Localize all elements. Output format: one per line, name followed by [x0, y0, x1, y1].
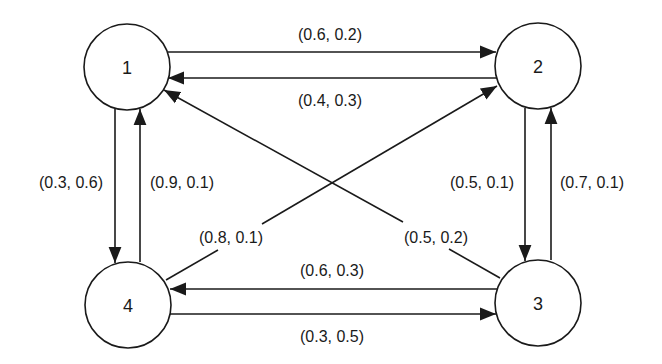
node-2: 2: [495, 23, 581, 109]
node-label: 2: [533, 57, 543, 77]
edge-label: (0.5, 0.2): [404, 229, 468, 246]
arrow-line-segment: [449, 249, 500, 278]
edge-label: (0.6, 0.2): [298, 26, 362, 43]
node-1: 1: [84, 24, 170, 110]
node-label: 1: [122, 58, 132, 78]
edge-label: (0.8, 0.1): [199, 229, 263, 246]
edge-2-to-1: (0.4, 0.3): [168, 78, 497, 109]
edge-label: (0.3, 0.6): [39, 174, 103, 191]
state-transition-diagram: (0.6, 0.2) (0.4, 0.3) (0.3, 0.6) (0.9, 0…: [0, 0, 662, 364]
edge-label: (0.9, 0.1): [150, 174, 214, 191]
arrow-line: [164, 90, 403, 222]
edge-3-to-2: (0.7, 0.1): [551, 108, 624, 260]
edge-label: (0.3, 0.5): [300, 328, 364, 345]
edge-label: (0.4, 0.3): [298, 92, 362, 109]
edge-1-to-2: (0.6, 0.2): [168, 26, 496, 52]
edge-label: (0.6, 0.3): [300, 262, 364, 279]
arrow-line-segment: [166, 250, 218, 280]
edge-label: (0.7, 0.1): [560, 174, 624, 191]
diagram-canvas: (0.6, 0.2) (0.4, 0.3) (0.3, 0.6) (0.9, 0…: [0, 0, 662, 364]
node-3: 3: [495, 260, 581, 346]
edge-1-to-4: (0.3, 0.6): [39, 109, 115, 263]
edge-label: (0.5, 0.1): [450, 174, 514, 191]
edge-3-to-4: (0.6, 0.3): [170, 262, 497, 289]
node-label: 4: [123, 296, 133, 316]
node-label: 3: [533, 294, 543, 314]
edge-4-to-3: (0.3, 0.5): [170, 314, 496, 345]
node-4: 4: [85, 262, 171, 348]
